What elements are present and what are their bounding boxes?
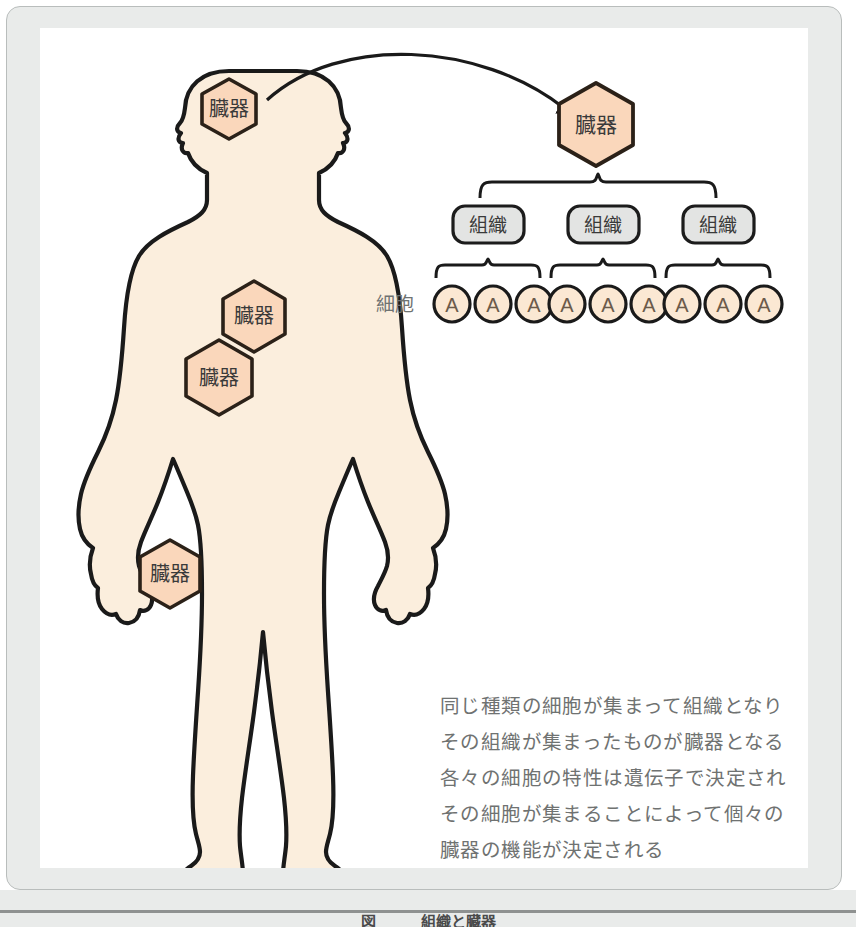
cell-label: A — [716, 294, 730, 316]
cell-circle: A — [516, 286, 552, 322]
hierarchy-organ-node: 臓器 — [559, 83, 633, 166]
tissue-box-label: 組織 — [469, 215, 507, 236]
description-line-2: その組織が集まったものが臓器となる — [440, 724, 790, 760]
human-body-silhouette: 臓器 臓器 臓器 臓器 — [79, 71, 448, 868]
cell-circle: A — [746, 286, 782, 322]
cell-label: A — [560, 294, 574, 316]
figure-caption: 図 組織と臓器 — [0, 913, 856, 927]
cell-row-label: 細胞 — [376, 294, 414, 315]
cell-label: A — [527, 294, 541, 316]
tissue-box-3: 組織 — [683, 206, 754, 243]
cell-circle: A — [549, 286, 585, 322]
hierarchy-organ-label: 臓器 — [575, 113, 617, 136]
organ-hexagon-label: 臓器 — [209, 98, 249, 120]
organ-hexagon-label: 臓器 — [234, 305, 274, 327]
body-organ-abdomen: 臓器 — [186, 340, 252, 415]
cell-circle: A — [434, 286, 470, 322]
cell-label: A — [486, 294, 500, 316]
tissue-box-1: 組織 — [453, 206, 524, 243]
organ-hexagon-label: 臓器 — [199, 367, 239, 389]
tissue-box-label: 組織 — [699, 215, 737, 236]
body-organ-head: 臓器 — [202, 79, 256, 139]
description-paragraph: 同じ種類の細胞が集まって組織となり その組織が集まったものが臓器となる 各々の細… — [440, 688, 790, 868]
cell-label: A — [675, 294, 689, 316]
brace-tissue-to-cells-2 — [551, 259, 655, 278]
body-organ-leg: 臓器 — [140, 540, 200, 608]
cell-circle: A — [631, 286, 667, 322]
cell-group-2: A A A — [549, 286, 667, 322]
figure-page: 臓器 臓器 臓器 臓器 臓器 組織 — [0, 0, 856, 927]
description-line-5: 臓器の機能が決定される — [440, 832, 790, 868]
brace-tissue-to-cells-1 — [436, 259, 540, 278]
cell-group-3: A A A — [664, 286, 782, 322]
tissue-box-2: 組織 — [568, 206, 639, 243]
cell-label: A — [757, 294, 771, 316]
body-outline — [79, 71, 448, 868]
cell-group-1: A A A — [434, 286, 552, 322]
organ-hexagon-label: 臓器 — [150, 563, 190, 585]
cell-circle: A — [475, 286, 511, 322]
brace-tissue-to-cells-3 — [666, 259, 770, 278]
cell-label: A — [601, 294, 615, 316]
cell-label: A — [445, 294, 459, 316]
tissue-box-label: 組織 — [584, 215, 622, 236]
cell-circle: A — [705, 286, 741, 322]
cell-label: A — [642, 294, 656, 316]
body-organ-chest: 臓器 — [223, 281, 285, 352]
description-line-1: 同じ種類の細胞が集まって組織となり — [440, 688, 790, 724]
cell-circle: A — [664, 286, 700, 322]
cell-circle: A — [590, 286, 626, 322]
brace-organ-to-tissue — [480, 174, 716, 198]
description-line-3: 各々の細胞の特性は遺伝子で決定され — [440, 760, 790, 796]
description-line-4: その細胞が集まることによって個々の — [440, 796, 790, 832]
